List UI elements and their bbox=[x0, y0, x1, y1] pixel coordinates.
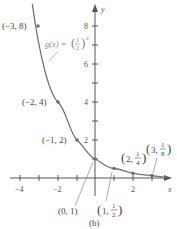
y-axis bbox=[92, 4, 98, 196]
point-label-2-quarter: ( 2, 1 4 ) bbox=[121, 150, 146, 167]
point-label-3-eighth: ( 3, 1 8 ) bbox=[146, 141, 171, 158]
point-label: (−2, 4) bbox=[22, 97, 47, 107]
svg-text:(: ( bbox=[97, 202, 101, 217]
y-tick-label: 2 bbox=[84, 136, 88, 145]
point-label: (−1, 2) bbox=[42, 135, 67, 145]
svg-text:4: 4 bbox=[136, 159, 140, 167]
svg-text:g(x) =: g(x) = bbox=[45, 39, 67, 49]
y-tick-label: 4 bbox=[84, 98, 88, 107]
svg-text:8: 8 bbox=[161, 150, 165, 158]
x-tick-label: −4 bbox=[15, 185, 24, 194]
x-tick-label: −2 bbox=[53, 185, 62, 194]
figure-caption: (b) bbox=[89, 218, 100, 228]
svg-text:1: 1 bbox=[112, 202, 116, 210]
svg-text:): ) bbox=[81, 35, 85, 50]
x-tick-label: 2 bbox=[131, 185, 135, 194]
point-label-1-half: ( 1, 1 2 ) bbox=[97, 202, 122, 219]
svg-text:): ) bbox=[118, 202, 122, 217]
point-label: (0, 1) bbox=[58, 206, 78, 216]
y-axis-label: y bbox=[100, 5, 105, 14]
x-axis-label: x bbox=[167, 185, 172, 194]
svg-text:): ) bbox=[167, 141, 171, 156]
exponential-graph: −4 −2 2 2 4 6 8 y x (−3, 8) (−2, 4) (−1,… bbox=[0, 0, 177, 229]
svg-text:2,: 2, bbox=[126, 154, 133, 164]
svg-text:x: x bbox=[85, 34, 89, 41]
svg-text:1: 1 bbox=[161, 141, 165, 149]
function-label: g(x) = ( 1 2 ) x bbox=[45, 34, 89, 51]
svg-text:(: ( bbox=[71, 35, 75, 50]
svg-text:(: ( bbox=[121, 150, 125, 165]
svg-text:2: 2 bbox=[76, 44, 79, 51]
svg-text:(: ( bbox=[146, 141, 150, 156]
svg-text:2: 2 bbox=[112, 211, 116, 219]
svg-text:1: 1 bbox=[136, 150, 140, 158]
y-tick-label: 8 bbox=[84, 22, 88, 31]
svg-text:3,: 3, bbox=[151, 145, 158, 155]
svg-text:1: 1 bbox=[76, 36, 79, 43]
x-axis bbox=[10, 175, 172, 181]
y-tick-label: 6 bbox=[84, 60, 88, 69]
svg-text:1,: 1, bbox=[102, 206, 109, 216]
point-label: (−3, 8) bbox=[2, 21, 27, 31]
